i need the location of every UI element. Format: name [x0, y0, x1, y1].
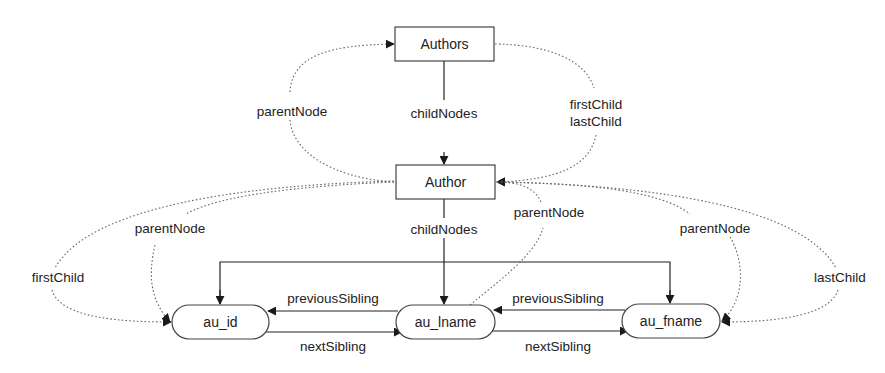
node-authors-label: Authors [420, 36, 468, 52]
edge-aulname-parentnode-author [470, 182, 543, 305]
label-authors-firstchild: firstChild [570, 97, 623, 112]
label-aulname-parentnode: parentNode [514, 205, 585, 220]
node-author-label: Author [425, 174, 467, 190]
label-author-childnodes: childNodes [411, 222, 478, 237]
label-aufname-lastchild: lastChild [814, 270, 866, 285]
node-au-fname: au_fname [622, 304, 720, 338]
node-au-fname-label: au_fname [640, 313, 702, 329]
label-authors-childnodes: childNodes [411, 106, 478, 121]
label-nextsibling-2: nextSibling [525, 339, 591, 354]
label-previoussibling-1: previousSibling [287, 291, 379, 306]
node-authors: Authors [395, 27, 494, 61]
label-authors-parentnode: parentNode [257, 104, 328, 119]
label-auid-firstchild: firstChild [32, 270, 85, 285]
node-au-id-label: au_id [203, 314, 237, 330]
label-nextsibling-1: nextSibling [300, 339, 366, 354]
label-auid-parentnode: parentNode [135, 221, 206, 236]
node-author: Author [396, 165, 495, 199]
dom-tree-diagram: Authors Author au_id au_lname au_fname p… [0, 0, 885, 373]
label-aufname-parentnode: parentNode [680, 221, 751, 236]
label-previoussibling-2: previousSibling [512, 291, 604, 306]
node-au-lname-label: au_lname [415, 314, 477, 330]
node-au-lname: au_lname [396, 305, 495, 339]
node-au-id: au_id [172, 305, 269, 339]
label-authors-lastchild: lastChild [570, 114, 622, 129]
edge-authors-firstlast-child [495, 44, 596, 182]
